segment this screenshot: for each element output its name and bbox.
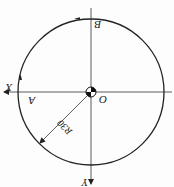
circle-path-diagram: X Y O A B R30 [0, 0, 174, 187]
direction-arrow-icon [74, 17, 80, 19]
origin-label: O [99, 94, 107, 106]
point-b-label: B [94, 19, 101, 31]
x-axis-label: X [4, 82, 13, 94]
radius-label: R30 [55, 118, 75, 138]
diagram-canvas: X Y O A B R30 [0, 0, 174, 187]
origin-symbol-icon [86, 87, 96, 97]
y-axis-label: Y [80, 177, 88, 187]
point-a-label: A [28, 95, 36, 107]
